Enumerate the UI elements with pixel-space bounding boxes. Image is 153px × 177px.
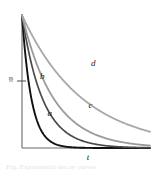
curves-group [22, 15, 150, 148]
curve-a [22, 15, 150, 148]
curve-label-c: c [89, 100, 93, 110]
exponential-decay-plot: m a b c d t [0, 0, 153, 177]
figure-container: m a b c d t Fig. Exponential decay curve… [0, 0, 153, 177]
x-axis-label: t [87, 152, 90, 162]
figure-caption-strip: Fig. Exponential decay curves [0, 163, 153, 177]
curve-label-d: d [91, 58, 96, 68]
curve-label-a: a [48, 108, 53, 118]
y-axis-tick-label: m [9, 75, 14, 81]
figure-caption: Fig. Exponential decay curves [0, 163, 153, 172]
curve-label-b: b [40, 71, 45, 81]
curve-b [22, 15, 150, 148]
